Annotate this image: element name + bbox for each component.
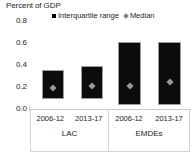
x-tick-label-lac-2013-17: 2013-17	[75, 114, 103, 123]
x-tick-label-emdes-2006-12: 2006-12	[115, 114, 143, 123]
x-group-emdes-periods: 2006-12 2013-17	[109, 114, 189, 123]
y-tick-label: 0.6	[16, 39, 27, 47]
plot-area	[30, 22, 190, 109]
legend-label-median: Median	[130, 12, 155, 20]
x-axis-labels: 2006-12 2013-17 LAC 2006-12 2013-17 EMDE…	[30, 110, 191, 152]
y-tick-label: 0.4	[16, 61, 27, 69]
median-marker-lac-2013-17	[88, 83, 95, 90]
x-group-lac-periods: 2006-12 2013-17	[31, 114, 108, 123]
median-marker-emdes-2006-12	[126, 82, 133, 89]
square-marker-icon	[52, 14, 56, 18]
x-tick-label-emdes-2013-17: 2013-17	[155, 114, 183, 123]
legend-item-median: Median	[124, 12, 155, 20]
chart-legend: Interquartile range Median	[52, 12, 154, 20]
y-tick-label: 0.2	[16, 83, 27, 91]
x-tick-label-lac-2006-12: 2006-12	[36, 114, 64, 123]
x-group-label-emdes: EMDEs	[109, 129, 189, 138]
bar-emdes-2013-17	[158, 42, 181, 105]
x-group-lac: 2006-12 2013-17 LAC	[30, 110, 109, 152]
median-marker-emdes-2013-17	[166, 78, 173, 85]
legend-item-interquartile-range: Interquartile range	[52, 12, 119, 20]
chart-figure: Percent of GDP Interquartile range Media…	[0, 0, 193, 160]
y-tick-label: 0.8	[16, 17, 27, 25]
x-group-emdes: 2006-12 2013-17 EMDEs	[109, 110, 190, 152]
legend-label-interquartile-range: Interquartile range	[58, 12, 119, 20]
y-tick-label: 0.0	[16, 105, 27, 113]
bar-lac-2013-17	[81, 66, 103, 99]
y-axis-title: Percent of GDP	[6, 1, 61, 10]
x-group-label-lac: LAC	[31, 129, 108, 138]
bar-lac-2006-12	[42, 70, 64, 99]
median-marker-lac-2006-12	[49, 84, 56, 91]
diamond-marker-icon	[123, 13, 129, 19]
y-axis-tick-labels: 0.0 0.2 0.4 0.6 0.8	[0, 16, 28, 116]
bar-emdes-2006-12	[118, 42, 141, 105]
